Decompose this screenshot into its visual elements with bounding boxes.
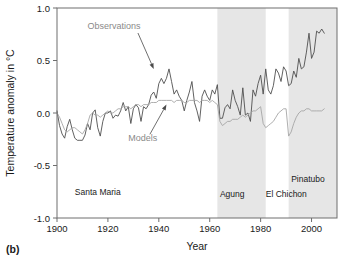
y-tick-label--0.5: -0.5 — [34, 160, 50, 171]
y-tick-label--1.0: -1.0 — [34, 213, 50, 224]
y-tick-label-1.0: 1.0 — [37, 3, 50, 14]
series-line-models — [57, 100, 324, 136]
eruption-annotation-agung: Agung — [220, 189, 245, 199]
eruption-annotation-pinatubo: Pinatubo — [291, 174, 325, 184]
eruption-annotation-santa-maria: Santa Maria — [75, 187, 121, 197]
x-tick-label-1960: 1960 — [199, 223, 220, 234]
x-tick-label-1920: 1920 — [97, 223, 118, 234]
leader-arrowhead-observations — [150, 63, 154, 69]
y-tick-label-0.5: 0.5 — [37, 55, 50, 66]
eruption-annotation-el-chichon: El Chichon — [266, 189, 307, 199]
shaded-bands-group — [217, 8, 337, 218]
series-line-observations — [57, 29, 324, 140]
leader-line-observations — [138, 33, 152, 64]
figure-panel: 190019201940196019802000 -1.0-0.50.00.51… — [0, 0, 347, 263]
x-tick-label-1940: 1940 — [148, 223, 169, 234]
x-tick-label-1980: 1980 — [250, 223, 271, 234]
series-annotation-models: Models — [128, 133, 158, 143]
y-tick-labels-group: -1.0-0.50.00.51.0 — [34, 3, 50, 224]
series-annotation-observations: Observations — [88, 21, 142, 31]
eruption-band-agung — [217, 8, 265, 218]
panel-label: (b) — [6, 243, 19, 255]
x-axis-title: Year — [186, 240, 208, 252]
annotations-group: ObservationsModelsSanta MariaAgungEl Chi… — [75, 21, 325, 199]
temperature-anomaly-chart: 190019201940196019802000 -1.0-0.50.00.51… — [0, 0, 347, 263]
leader-line-models — [150, 109, 164, 134]
series-group — [57, 29, 324, 140]
y-tick-label-0.0: 0.0 — [37, 108, 50, 119]
x-tick-labels-group: 190019201940196019802000 — [46, 223, 322, 234]
leader-arrowhead-models — [162, 105, 167, 111]
eruption-band-el-chichon-pinatubo — [289, 8, 337, 218]
x-tick-label-2000: 2000 — [301, 223, 322, 234]
x-tick-label-1900: 1900 — [46, 223, 67, 234]
y-axis-title: Temperature anomaly in °C — [4, 49, 16, 177]
